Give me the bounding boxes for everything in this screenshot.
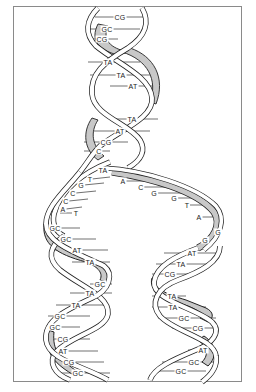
base-pair-label: CG xyxy=(63,359,76,366)
base-label: G xyxy=(150,190,158,197)
base-label: A xyxy=(196,214,203,221)
base-pair-label: TA xyxy=(116,72,127,79)
base-label: T xyxy=(87,176,93,183)
base-pair-label: GC xyxy=(72,370,85,377)
base-label: T xyxy=(184,202,190,209)
base-pair-label: TA xyxy=(176,261,187,268)
base-pair-label: CG xyxy=(192,325,205,332)
base-label: C xyxy=(69,190,76,197)
base-label: A xyxy=(120,178,127,185)
base-pair-label: TA xyxy=(71,302,82,309)
base-pair-label: CG xyxy=(100,139,113,146)
base-pair-label: GC xyxy=(54,313,67,320)
base-pair-label: AT xyxy=(115,128,126,135)
base-label: G xyxy=(170,195,178,202)
base-pair-label: GC xyxy=(175,368,188,375)
base-pair-label: AT xyxy=(187,250,198,257)
base-pair-label: TA xyxy=(167,293,178,300)
base-label: G xyxy=(201,237,209,244)
base-pair-label: CG xyxy=(164,271,177,278)
base-pair-label: TA xyxy=(168,304,179,311)
base-pair-label: GC xyxy=(94,281,107,288)
parent-helix xyxy=(80,8,160,172)
base-pair-label: GC xyxy=(60,236,73,243)
base-pair-label: CG xyxy=(114,14,127,21)
base-label: A xyxy=(60,206,67,213)
left-daughter-helix xyxy=(44,172,112,380)
base-pair-label: TA xyxy=(85,290,96,297)
base-pair-label: C xyxy=(95,148,102,155)
base-label: T xyxy=(73,210,79,217)
base-pair-label: TA xyxy=(98,167,109,174)
base-pair-label: CG xyxy=(57,336,70,343)
base-pair-label: GC xyxy=(188,359,201,366)
base-pair-label: GC xyxy=(101,26,114,33)
base-pair-label: GC xyxy=(49,225,62,232)
base-label: G xyxy=(214,229,222,236)
base-pair-label: TA xyxy=(127,116,138,123)
dna-helix-drawing xyxy=(0,0,256,392)
base-pair-label: GC xyxy=(49,324,62,331)
base-label: C xyxy=(137,184,144,191)
base-pair-label: AT xyxy=(198,347,209,354)
base-pair-label: CG xyxy=(96,36,109,43)
base-pair-label: TA xyxy=(85,259,96,266)
base-pair-label: TA xyxy=(103,59,114,66)
base-label: G xyxy=(77,182,85,189)
base-label: C xyxy=(62,198,69,205)
base-pair-label: AT xyxy=(72,247,83,254)
base-pair-label: AT xyxy=(128,83,139,90)
base-pair-label: GC xyxy=(178,315,191,322)
base-pair-label: AT xyxy=(58,348,69,355)
